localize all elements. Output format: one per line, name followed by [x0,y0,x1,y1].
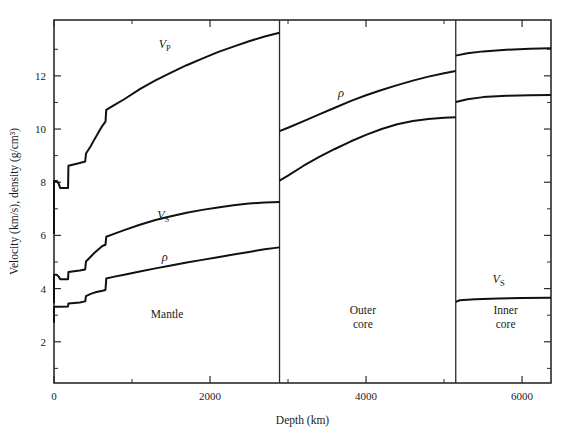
curve-label-rho: ρ [161,250,168,264]
x-tick-label: 0 [51,390,57,402]
chart-canvas: 246810120200040006000VPVSVSρρMantleOuter… [0,0,573,441]
region-label-mantle: Mantle [151,308,184,320]
curve-Vs-inner-core [456,298,551,302]
x-tick-label: 2000 [199,390,222,402]
y-tick-label: 12 [35,70,46,82]
curve-rho-inner-core [456,48,551,55]
curve-label-rho: ρ [337,86,344,100]
x-axis-title: Depth (km) [276,414,330,427]
y-tick-label: 2 [41,336,47,348]
curve-Vp-outer-core [280,117,456,180]
curve-Vp-inner-core [456,95,551,102]
plot-frame [54,20,551,383]
y-tick-label: 10 [35,123,47,135]
curve-label-Vs: VS [157,208,169,224]
y-tick-label: 4 [41,283,47,295]
x-tick-label: 6000 [511,390,534,402]
region-label-inner-core: core [496,318,516,330]
region-label-outer-core: core [353,318,373,330]
curve-rho-outer-core [280,71,456,131]
y-tick-label: 8 [41,176,47,188]
curve-label-Vp: VP [159,37,171,53]
seismic-velocity-density-figure: 246810120200040006000VPVSVSρρMantleOuter… [0,0,573,441]
region-label-inner-core: Inner [494,304,518,316]
x-tick-label: 4000 [355,390,378,402]
y-axis-title: Velocity (km/s), density (g/cm³) [8,128,21,275]
y-tick-label: 6 [41,229,47,241]
region-label-outer-core: Outer [350,304,376,316]
curve-label-Vs: VS [493,272,505,288]
